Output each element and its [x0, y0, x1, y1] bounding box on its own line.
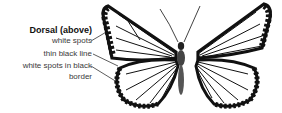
right-forewing [198, 4, 270, 58]
antennae [160, 6, 200, 42]
callout-white-spots-border-line2: border [69, 72, 92, 82]
left-hindwing [117, 60, 178, 107]
callout-white-spots: white spots [52, 36, 92, 46]
butterfly-diagram: Dorsal (above) white spots thin black li… [0, 0, 282, 113]
callout-thin-black-line: thin black line [44, 49, 92, 59]
left-forewing [103, 6, 176, 60]
view-title: Dorsal (above) [29, 25, 92, 35]
butterfly-illustration [0, 0, 282, 113]
right-hindwing [196, 60, 257, 107]
leader-white-spots-border [91, 66, 117, 82]
callout-white-spots-border-line1: white spots in black [23, 61, 92, 71]
